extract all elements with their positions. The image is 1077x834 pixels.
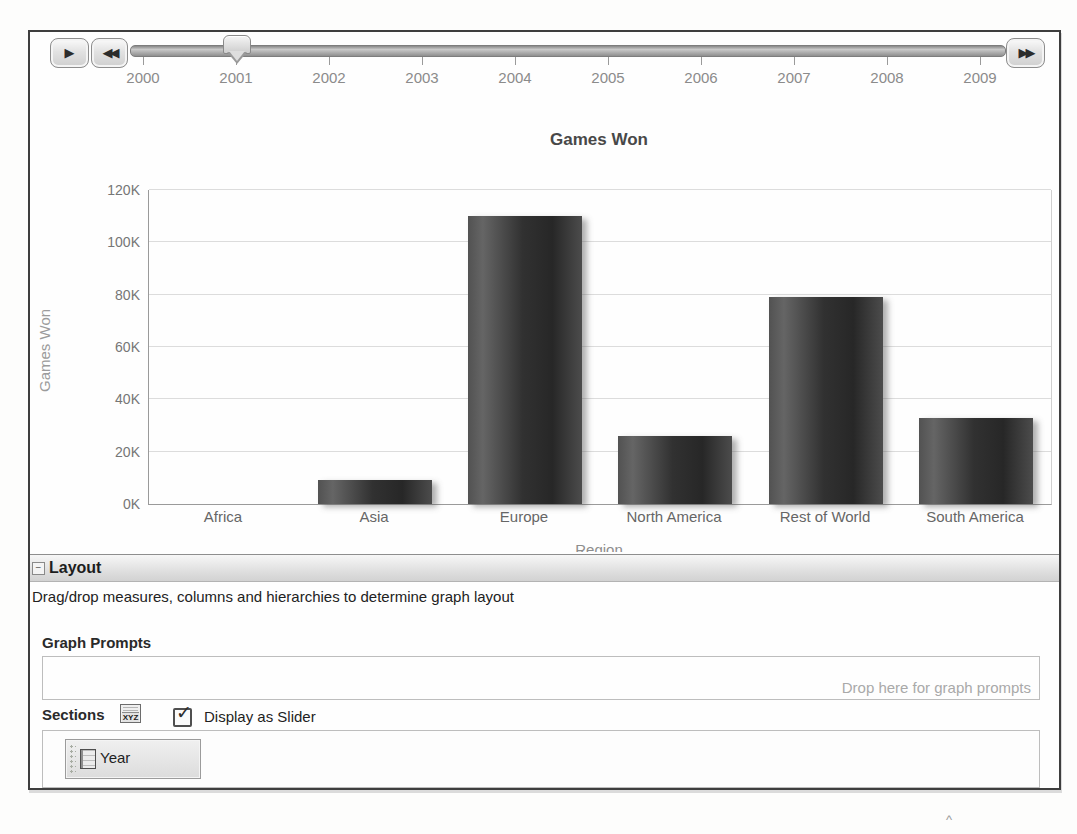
- chart-title: Games Won: [148, 130, 1050, 150]
- play-icon: ▶: [65, 45, 75, 60]
- gridline: [149, 398, 1051, 399]
- graph-prompts-dropzone[interactable]: Drop here for graph prompts: [42, 656, 1040, 700]
- display-as-slider-label: Display as Slider: [204, 708, 316, 725]
- y-tick-label: 0K: [94, 496, 140, 512]
- gridline: [149, 189, 1051, 190]
- layout-description: Drag/drop measures, columns and hierarch…: [32, 588, 514, 605]
- slider-tick: [608, 57, 609, 65]
- drag-grip-icon[interactable]: [69, 744, 76, 774]
- bar-chart: 0K20K40K60K80K100K120K AfricaAsiaEuropeN…: [94, 185, 1052, 555]
- slider-tick: [701, 57, 702, 65]
- slider-year-label[interactable]: 2004: [483, 69, 547, 86]
- slider-rewind-button[interactable]: ◀◀: [91, 38, 128, 68]
- checkmark-icon: ✓: [176, 701, 192, 724]
- slider-year-label[interactable]: 2005: [576, 69, 640, 86]
- x-tick-label: South America: [895, 508, 1055, 525]
- slider-forward-button[interactable]: ▶▶: [1006, 38, 1045, 68]
- slider-tick: [422, 57, 423, 65]
- x-tick-label: Rest of World: [745, 508, 905, 525]
- rewind-icon: ◀◀: [103, 39, 117, 66]
- bar-south-america[interactable]: [919, 418, 1033, 504]
- y-tick-label: 40K: [94, 391, 140, 407]
- graph-editor-panel: ▶ ◀◀ 20002001200220032004200520062007200…: [28, 30, 1061, 790]
- slider-tick: [143, 57, 144, 65]
- sections-label: Sections: [42, 706, 105, 723]
- slider-scale: 2000200120022003200420052006200720082009: [130, 57, 1020, 97]
- slider-year-label[interactable]: 2001: [204, 69, 268, 86]
- graph-prompts-placeholder: Drop here for graph prompts: [842, 679, 1031, 696]
- collapse-icon[interactable]: −: [32, 562, 45, 575]
- bar-europe[interactable]: [468, 216, 582, 504]
- scan-artifact-mark: ^: [946, 812, 952, 827]
- gridline: [149, 241, 1051, 242]
- x-tick-label: North America: [594, 508, 754, 525]
- plot-area: [148, 190, 1052, 505]
- x-axis-title: Region: [148, 541, 1050, 552]
- x-tick-label: Europe: [444, 508, 604, 525]
- bar-rest-of-world[interactable]: [769, 297, 883, 504]
- slider-tick: [329, 57, 330, 65]
- slider-tick: [515, 57, 516, 65]
- bar-north-america[interactable]: [618, 436, 732, 504]
- y-tick-label: 120K: [94, 182, 140, 198]
- measure-labels-icon: XYZ: [120, 704, 141, 723]
- year-slider-track[interactable]: [130, 45, 1006, 57]
- section-item-label: Year: [100, 749, 130, 766]
- gridline: [149, 294, 1051, 295]
- x-tick-label: Africa: [143, 508, 303, 525]
- x-tick-label: Asia: [294, 508, 454, 525]
- year-slider-thumb[interactable]: [223, 35, 251, 54]
- slider-year-label[interactable]: 2003: [390, 69, 454, 86]
- scan-artifact-strip: , . ‚ . ,: [140, 0, 1040, 6]
- column-icon: [80, 749, 96, 769]
- display-as-slider-checkbox[interactable]: ✓: [173, 708, 192, 727]
- measure-labels-icon-text: XYZ: [122, 712, 139, 722]
- slider-year-label[interactable]: 2008: [855, 69, 919, 86]
- slider-year-label[interactable]: 2006: [669, 69, 733, 86]
- fast-forward-icon: ▶▶: [1019, 39, 1033, 66]
- slider-play-button[interactable]: ▶: [50, 38, 89, 68]
- layout-section-header[interactable]: − Layout: [30, 554, 1059, 582]
- slider-tick: [887, 57, 888, 65]
- y-tick-label: 100K: [94, 234, 140, 250]
- sections-dropzone[interactable]: Year: [42, 730, 1040, 788]
- y-tick-label: 20K: [94, 444, 140, 460]
- gridline: [149, 346, 1051, 347]
- slider-year-label[interactable]: 2000: [111, 69, 175, 86]
- slider-tick: [980, 57, 981, 65]
- section-item-year[interactable]: Year: [65, 739, 201, 779]
- bar-asia[interactable]: [318, 480, 432, 504]
- graph-prompts-label: Graph Prompts: [42, 634, 151, 651]
- y-tick-label: 80K: [94, 287, 140, 303]
- layout-section-title: Layout: [49, 559, 101, 577]
- slider-year-label[interactable]: 2009: [948, 69, 1012, 86]
- slider-year-label[interactable]: 2007: [762, 69, 826, 86]
- y-axis-title: Games Won: [36, 275, 62, 425]
- slider-year-label[interactable]: 2002: [297, 69, 361, 86]
- slider-tick: [794, 57, 795, 65]
- y-tick-label: 60K: [94, 339, 140, 355]
- gridline: [149, 451, 1051, 452]
